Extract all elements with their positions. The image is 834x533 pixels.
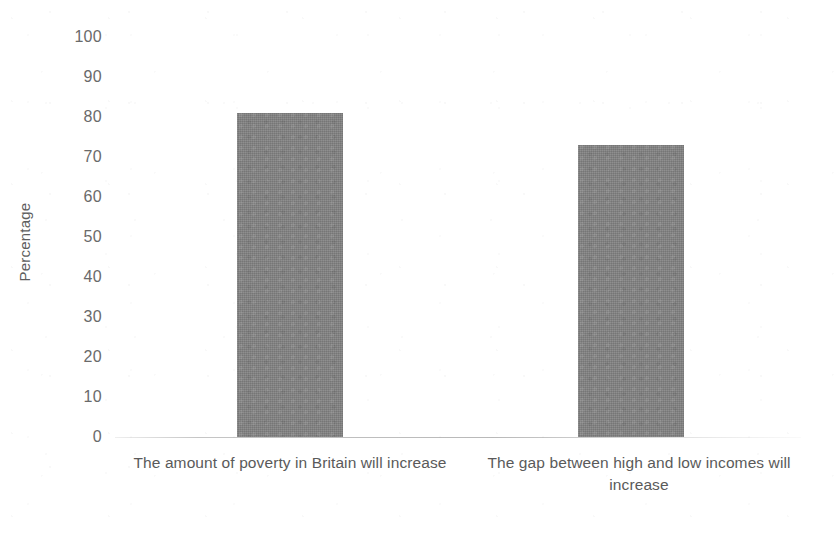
y-axis-title: Percentage	[16, 182, 38, 302]
y-axis-tick-label: 20	[52, 349, 102, 365]
y-axis-tick-label: 40	[52, 269, 102, 285]
y-axis-tick-labels: 1009080706050403020100	[52, 0, 102, 533]
x-axis-category-label: The amount of poverty in Britain will in…	[117, 452, 463, 474]
x-axis-baseline	[115, 437, 801, 438]
y-axis-tick-label: 100	[52, 29, 102, 45]
y-axis-tick-label: 30	[52, 309, 102, 325]
y-axis-tick-label: 10	[52, 389, 102, 405]
plot-area	[115, 37, 801, 437]
y-axis-tick-label: 90	[52, 69, 102, 85]
bar-chart: Percentage 1009080706050403020100 The am…	[0, 0, 834, 533]
bar	[237, 113, 343, 437]
y-axis-tick-label: 0	[52, 429, 102, 445]
y-axis-tick-label: 60	[52, 189, 102, 205]
bar	[578, 145, 684, 437]
x-axis-category-label: The gap between high and low incomes wil…	[466, 452, 812, 497]
y-axis-tick-label: 70	[52, 149, 102, 165]
y-axis-tick-label: 80	[52, 109, 102, 125]
y-axis-tick-label: 50	[52, 229, 102, 245]
